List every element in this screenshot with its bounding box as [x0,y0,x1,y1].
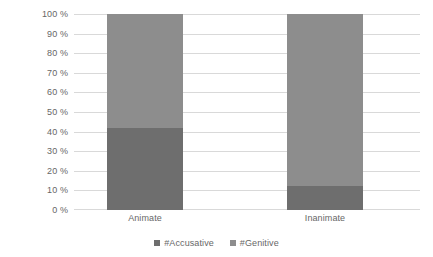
y-tick-label: 90 % [47,29,68,39]
bar-stack-animate[interactable] [107,14,183,210]
y-tick-label: 0 % [52,205,68,215]
legend-label: #Genitive [240,238,279,248]
bar-segment-accusative[interactable] [107,128,183,210]
y-tick-label: 80 % [47,48,68,58]
x-axis: Animate Inanimate [74,213,420,229]
plot-area [74,14,420,210]
y-tick-label: 20 % [47,166,68,176]
y-tick-label: 50 % [47,107,68,117]
y-tick-label: 70 % [47,68,68,78]
x-tick-label-animate: Animate [128,213,162,223]
legend-swatch-icon [154,240,160,246]
y-tick-label: 40 % [47,127,68,137]
x-tick-label-inanimate: Inanimate [305,213,345,223]
bar-segment-genitive[interactable] [287,14,363,186]
legend-swatch-icon [230,240,236,246]
y-axis: 0 % 10 % 20 % 30 % 40 % 50 % 60 % 70 % 8… [0,14,68,210]
legend-item-accusative[interactable]: #Accusative [154,238,214,248]
y-tick-label: 10 % [47,185,68,195]
y-tick-label: 100 % [42,9,68,19]
bar-stack-inanimate[interactable] [287,14,363,210]
legend-label: #Accusative [164,238,214,248]
legend: #Accusative #Genitive [0,238,433,248]
bar-segment-genitive[interactable] [107,14,183,128]
legend-item-genitive[interactable]: #Genitive [230,238,279,248]
y-tick-label: 60 % [47,87,68,97]
chart-container: 0 % 10 % 20 % 30 % 40 % 50 % 60 % 70 % 8… [0,0,433,257]
bar-segment-accusative[interactable] [287,186,363,210]
y-tick-label: 30 % [47,146,68,156]
